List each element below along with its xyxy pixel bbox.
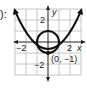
vertex-label: (0, −1) [51,54,77,64]
y-tick-2: 2 [40,15,45,25]
y-axis-label: y [51,7,57,17]
graph: −2 2 x 2 −2 y (0, −1) [0,0,87,89]
x-tick-2: 2 [67,43,72,53]
vertex-point [46,51,50,55]
x-tick-neg2: −2 [16,43,26,53]
y-tick-neg2: −2 [34,60,44,70]
x-axis-label: x [76,43,82,53]
